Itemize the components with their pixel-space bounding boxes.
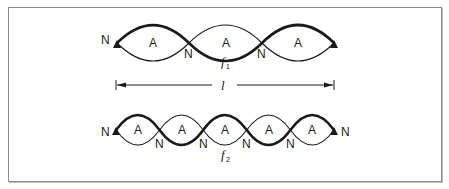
node-label: N — [155, 137, 164, 151]
node-label: N — [286, 137, 295, 151]
antinode-label: A — [178, 123, 186, 137]
node-label: N — [101, 33, 110, 47]
antinode-label: A — [221, 123, 229, 137]
node-label: N — [341, 125, 350, 139]
antinode-label: A — [308, 123, 316, 137]
node-label: N — [242, 137, 251, 151]
node-label: N — [199, 137, 208, 151]
antinode-label: A — [222, 36, 230, 50]
arrowhead-right — [324, 83, 333, 88]
arrowhead-left — [117, 83, 126, 88]
node-label: N — [101, 125, 110, 139]
frequency-subscript-1: 1 — [226, 63, 230, 70]
antinode-label: A — [134, 123, 142, 137]
node-label: N — [184, 47, 193, 61]
standing-wave-diagram: N A N A N A f 1 l N A N A N A N A N A N … — [0, 0, 449, 189]
antinode-label: A — [149, 36, 157, 50]
antinode-label: A — [294, 36, 302, 50]
frequency-subscript-2: 2 — [226, 156, 230, 163]
length-arrow — [116, 80, 334, 90]
node-label: N — [257, 47, 266, 61]
antinode-label: A — [265, 123, 273, 137]
length-symbol: l — [221, 78, 225, 93]
